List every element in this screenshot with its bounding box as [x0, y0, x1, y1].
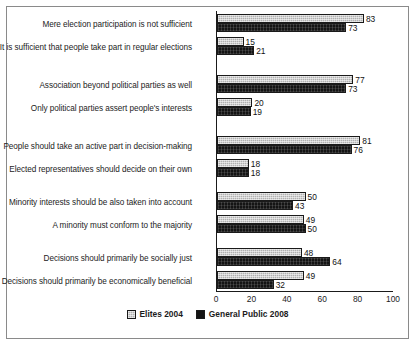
bar-value-label: 49 — [306, 271, 315, 281]
category-label: Association beyond political parties as … — [39, 81, 192, 90]
category-label: Only political parties assert people's i… — [31, 104, 192, 113]
bar-value-label: 48 — [304, 248, 313, 258]
chart-legend: Elites 2004General Public 2008 — [0, 309, 415, 319]
bar-value-label: 64 — [332, 257, 341, 267]
bar-elites-2004 — [217, 136, 360, 145]
bar-elites-2004 — [217, 14, 364, 23]
bar-elites-2004 — [217, 159, 249, 168]
legend-swatch — [127, 310, 136, 319]
bar-group-row: Association beyond political parties as … — [0, 75, 415, 95]
bar-elites-2004 — [217, 37, 244, 46]
bar-value-label: 18 — [251, 168, 260, 178]
category-label: Minority interests should be also taken … — [9, 198, 192, 207]
bar-group-row: Decisions should primarily be socially j… — [0, 248, 415, 268]
bar-value-label: 21 — [256, 46, 265, 56]
bar-value-label: 50 — [308, 192, 317, 202]
bar-elites-2004 — [217, 98, 252, 107]
bar-elites-2004 — [217, 192, 306, 201]
bar-general-public-2008 — [217, 224, 306, 233]
bar-group-row: Minority interests should be also taken … — [0, 192, 415, 212]
x-tick-label: 40 — [282, 294, 291, 304]
x-tick-label: 100 — [386, 294, 400, 304]
x-axis-line — [216, 291, 393, 292]
bar-elites-2004 — [217, 215, 304, 224]
bar-general-public-2008 — [217, 46, 254, 55]
x-tick-label: 20 — [247, 294, 256, 304]
category-label: Elected representatives should decide on… — [9, 165, 192, 174]
bar-value-label: 83 — [366, 14, 375, 24]
bar-general-public-2008 — [217, 107, 251, 116]
legend-entry: General Public 2008 — [196, 309, 289, 319]
bar-value-label: 43 — [295, 201, 304, 211]
x-tick-label: 0 — [214, 294, 219, 304]
x-tick-label: 60 — [318, 294, 327, 304]
bar-value-label: 76 — [354, 145, 363, 155]
x-tick-label: 80 — [353, 294, 362, 304]
bar-general-public-2008 — [217, 257, 330, 266]
bar-general-public-2008 — [217, 280, 274, 289]
bar-elites-2004 — [217, 248, 302, 257]
category-label: It is sufficient that people take part i… — [0, 43, 192, 52]
category-label: Decisions should primarily be socially j… — [44, 254, 192, 263]
bar-value-label: 73 — [348, 23, 357, 33]
category-label: People should take an active part in dec… — [3, 142, 192, 151]
bar-elites-2004 — [217, 271, 304, 280]
category-label: Mere election participation is not suffi… — [42, 20, 192, 29]
bar-general-public-2008 — [217, 84, 346, 93]
category-label: Decisions should primarily be economical… — [2, 277, 192, 286]
bar-value-label: 19 — [253, 107, 262, 117]
bar-group-row: A minority must conform to the majority4… — [0, 215, 415, 235]
legend-entry: Elites 2004 — [127, 309, 183, 319]
bar-general-public-2008 — [217, 23, 346, 32]
bar-chart-figure: Mere election participation is not suffi… — [0, 0, 415, 348]
bar-group-row: Elected representatives should decide on… — [0, 159, 415, 179]
legend-label: General Public 2008 — [209, 309, 289, 319]
bar-group-row: People should take an active part in dec… — [0, 136, 415, 156]
plot-area: Mere election participation is not suffi… — [0, 0, 415, 348]
bar-group-row: Mere election participation is not suffi… — [0, 14, 415, 34]
category-label: A minority must conform to the majority — [52, 221, 192, 230]
bar-value-label: 73 — [348, 84, 357, 94]
bar-value-label: 15 — [246, 37, 255, 47]
bar-group-row: It is sufficient that people take part i… — [0, 37, 415, 57]
legend-label: Elites 2004 — [140, 309, 183, 319]
bar-value-label: 32 — [276, 280, 285, 290]
bar-group-row: Only political parties assert people's i… — [0, 98, 415, 118]
bar-general-public-2008 — [217, 168, 249, 177]
bar-group-row: Decisions should primarily be economical… — [0, 271, 415, 291]
bar-value-label: 81 — [362, 136, 371, 146]
bar-general-public-2008 — [217, 145, 352, 154]
legend-swatch — [196, 310, 205, 319]
bar-general-public-2008 — [217, 201, 293, 210]
bar-value-label: 50 — [308, 224, 317, 234]
bar-elites-2004 — [217, 75, 353, 84]
